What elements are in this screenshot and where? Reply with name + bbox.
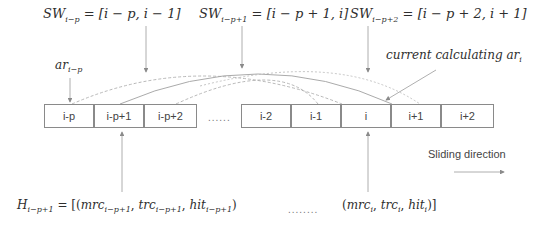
mrc-first-sub: i−p+1 xyxy=(105,205,131,214)
sw-sub: i−p+2 xyxy=(372,15,398,24)
trc-first: trc xyxy=(138,198,155,212)
cell-i+1: i+1 xyxy=(391,104,441,128)
sw-base: SW xyxy=(350,6,372,21)
cell-i-1: i-1 xyxy=(291,104,341,128)
arc-sw1 xyxy=(72,76,342,104)
middle-ellipsis: ...... xyxy=(208,112,231,123)
sw-base: SW xyxy=(43,6,65,21)
current-arrow xyxy=(386,70,436,100)
sw-sub: i−p+1 xyxy=(221,15,247,24)
history-formula: Hi−p+1 = [(mrci−p+1, trci−p+1, hiti−p+1) xyxy=(17,198,237,214)
sw-eq: = [i − p + 2, i + 1] xyxy=(403,6,527,21)
sw-formula-3: SWi−p+2 = [i − p + 2, i + 1] xyxy=(350,6,527,24)
current-text: current calculating ar xyxy=(386,48,519,62)
sw-base: SW xyxy=(199,6,221,21)
mrc-first: mrc xyxy=(81,198,105,212)
sliding-direction-label: Sliding direction xyxy=(428,148,506,160)
sw-formula-2: SWi−p+1 = [i − p + 1, i] xyxy=(199,6,348,24)
cell-i+2: i+2 xyxy=(441,104,494,128)
h-base: H xyxy=(17,198,27,212)
sw-formula-1: SWi−p = [i − p, i − 1] xyxy=(43,6,180,24)
h-eq: = [( xyxy=(57,198,80,212)
hit-last: hit xyxy=(408,198,424,212)
trc-first-sub: i−p+1 xyxy=(156,205,182,214)
cell-i-p+2: i-p+2 xyxy=(144,104,197,128)
current-calculating-label: current calculating ari xyxy=(386,48,522,64)
cell-i-p+1: i-p+1 xyxy=(94,104,144,128)
trc-last: trc xyxy=(381,198,398,212)
ar-label: ari−p xyxy=(55,58,82,74)
sw-eq: = [i − p + 1, i] xyxy=(252,6,349,21)
current-sub: i xyxy=(519,55,522,64)
cell-i-p: i-p xyxy=(44,104,94,128)
cell-i: i xyxy=(341,104,391,128)
ar-base: ar xyxy=(55,58,68,72)
history-last-tuple: (mrci, trci, hiti)] xyxy=(342,198,437,214)
cell-i-2: i-2 xyxy=(241,104,291,128)
sw-sub: i−p xyxy=(65,15,79,24)
sw-eq: = [i − p, i − 1] xyxy=(84,6,181,21)
arc-sw3 xyxy=(176,80,318,104)
h-sub: i−p+1 xyxy=(27,205,53,214)
hit-first: hit xyxy=(190,198,206,212)
mrc-last: mrc xyxy=(347,198,371,212)
history-ellipsis: ........ xyxy=(288,204,318,215)
ar-sub: i−p xyxy=(68,65,82,74)
hit-first-sub: i−p+1 xyxy=(206,205,232,214)
